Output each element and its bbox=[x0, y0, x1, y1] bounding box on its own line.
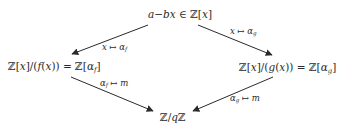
edge-label-top-left: x ↦ αf bbox=[102, 43, 127, 52]
var-m: m bbox=[252, 93, 260, 103]
integers-symbol: ℤ bbox=[190, 8, 198, 20]
node-bottom: ℤ/qℤ bbox=[160, 112, 186, 123]
subscript-g: g bbox=[253, 30, 257, 36]
bracket-close: ] bbox=[208, 8, 212, 20]
node-left: ℤ[x]/(f(x)) = ℤ[αf] bbox=[8, 61, 101, 72]
var-m: m bbox=[120, 78, 128, 88]
mapsto-arrow: ↦ bbox=[107, 42, 120, 52]
integers-symbol: ℤ bbox=[160, 111, 168, 123]
var-q: q bbox=[171, 111, 178, 123]
mapsto-arrow: ↦ bbox=[108, 78, 121, 88]
integers-symbol: ℤ bbox=[239, 61, 247, 73]
var-bx: bx bbox=[163, 8, 176, 20]
edge-label-top-right: x ↦ αg bbox=[230, 27, 257, 36]
equals-sign: = bbox=[293, 61, 308, 73]
edge-label-left-bottom: αf ↦ m bbox=[100, 79, 128, 88]
mapsto-arrow: ↦ bbox=[239, 93, 252, 103]
equals-sign: = bbox=[60, 60, 75, 72]
node-right: ℤ[x]/(g(x)) = ℤ[αg] bbox=[239, 62, 336, 73]
node-top: a−bx ∈ ℤ[x] bbox=[148, 9, 212, 20]
commutative-diagram: a−bx ∈ ℤ[x] ℤ[x]/(f(x)) = ℤ[αf] ℤ[x]/(g(… bbox=[0, 0, 341, 131]
var-alpha: α bbox=[87, 60, 94, 72]
bracket-close: ] bbox=[332, 61, 336, 73]
integers-symbol: ℤ bbox=[8, 60, 16, 72]
mapsto-arrow: ↦ bbox=[235, 26, 248, 36]
integers-symbol: ℤ bbox=[75, 60, 83, 72]
integers-symbol: ℤ bbox=[309, 61, 317, 73]
integers-symbol: ℤ bbox=[178, 111, 186, 123]
var-alpha: α bbox=[321, 61, 328, 73]
element-of-sign: ∈ bbox=[176, 8, 190, 20]
bracket-close: ] bbox=[97, 60, 101, 72]
minus-sign: − bbox=[154, 8, 163, 20]
edge-label-right-bottom: αg ↦ m bbox=[230, 94, 260, 103]
subscript-f: f bbox=[125, 46, 127, 52]
